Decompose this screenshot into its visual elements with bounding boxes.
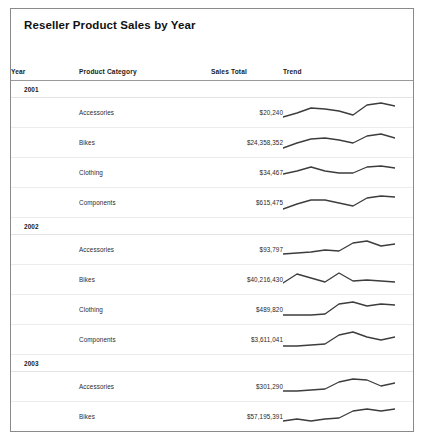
year-group-spacer	[283, 218, 413, 235]
cell-product-category: Accessories	[79, 235, 211, 265]
column-header-trend[interactable]: Trend	[283, 64, 413, 81]
sparkline-line	[283, 379, 395, 391]
cell-sales-total: $34,467	[211, 158, 283, 188]
sparkline-line	[283, 332, 395, 346]
table-row[interactable]: Bikes$57,195,391	[11, 402, 413, 432]
table-row[interactable]: Bikes$40,216,430	[11, 265, 413, 295]
cell-year-empty	[11, 188, 79, 218]
cell-sales-total: $884,354	[211, 432, 283, 433]
year-group-spacer	[79, 81, 211, 98]
sparkline-chart	[283, 269, 395, 291]
cell-trend	[283, 98, 413, 128]
year-group-spacer	[211, 218, 283, 235]
sparkline-chart	[283, 132, 395, 154]
cell-year-empty	[11, 265, 79, 295]
cell-trend	[283, 235, 413, 265]
cell-trend	[283, 295, 413, 325]
sparkline-line	[283, 103, 395, 117]
report-frame: Reseller Product Sales by Year Year Prod…	[10, 8, 414, 432]
cell-trend	[283, 402, 413, 432]
table-header: Year Product Category Sales Total Trend	[11, 64, 413, 81]
table-row[interactable]: Accessories$20,240	[11, 98, 413, 128]
sparkline-chart	[283, 406, 395, 428]
sparkline-chart	[283, 329, 395, 351]
cell-product-category: Accessories	[79, 98, 211, 128]
cell-product-category: Components	[79, 188, 211, 218]
sparkline-chart	[283, 376, 395, 398]
cell-sales-total: $489,820	[211, 295, 283, 325]
cell-product-category: Accessories	[79, 372, 211, 402]
year-group-spacer	[283, 355, 413, 372]
cell-year-empty	[11, 402, 79, 432]
sparkline-line	[283, 409, 395, 421]
cell-year-empty	[11, 235, 79, 265]
sparkline-line	[283, 134, 395, 148]
page-title: Reseller Product Sales by Year	[24, 19, 196, 31]
year-group-row: 2001	[11, 81, 413, 98]
table-row[interactable]: Accessories$301,290	[11, 372, 413, 402]
cell-sales-total: $301,290	[211, 372, 283, 402]
cell-product-category: Components	[79, 325, 211, 355]
year-group-label: 2003	[11, 355, 79, 372]
sparkline-line	[283, 241, 395, 254]
cell-sales-total: $24,358,352	[211, 128, 283, 158]
sparkline-chart	[283, 102, 395, 124]
cell-year-empty	[11, 98, 79, 128]
table-body: 2001Accessories$20,240Bikes$24,358,352Cl…	[11, 81, 413, 433]
year-group-row: 2002	[11, 218, 413, 235]
cell-trend	[283, 325, 413, 355]
cell-trend	[283, 158, 413, 188]
sales-table: Year Product Category Sales Total Trend …	[11, 64, 413, 432]
table-row[interactable]: Components$3,611,041	[11, 325, 413, 355]
cell-year-empty	[11, 128, 79, 158]
cell-trend	[283, 372, 413, 402]
cell-sales-total: $3,611,041	[211, 325, 283, 355]
table-row[interactable]: Clothing$34,467	[11, 158, 413, 188]
cell-product-category: Clothing	[79, 432, 211, 433]
year-group-spacer	[283, 81, 413, 98]
cell-year-empty	[11, 295, 79, 325]
column-header-year[interactable]: Year	[11, 64, 79, 81]
cell-year-empty	[11, 158, 79, 188]
sparkline-line	[283, 166, 395, 174]
table-row[interactable]: Clothing$884,354	[11, 432, 413, 433]
year-group-spacer	[79, 218, 211, 235]
cell-trend	[283, 432, 413, 433]
sparkline-chart	[283, 192, 395, 214]
table-row[interactable]: Bikes$24,358,352	[11, 128, 413, 158]
table-row[interactable]: Components$615,475	[11, 188, 413, 218]
cell-sales-total: $615,475	[211, 188, 283, 218]
cell-sales-total: $57,195,391	[211, 402, 283, 432]
year-group-spacer	[79, 355, 211, 372]
cell-sales-total: $93,797	[211, 235, 283, 265]
cell-product-category: Bikes	[79, 402, 211, 432]
cell-product-category: Clothing	[79, 158, 211, 188]
year-group-label: 2001	[11, 81, 79, 98]
sparkline-chart	[283, 239, 395, 261]
table-row[interactable]: Clothing$489,820	[11, 295, 413, 325]
cell-trend	[283, 188, 413, 218]
year-group-label: 2002	[11, 218, 79, 235]
column-header-total[interactable]: Sales Total	[211, 64, 283, 81]
year-group-spacer	[211, 81, 283, 98]
cell-trend	[283, 128, 413, 158]
year-group-row: 2003	[11, 355, 413, 372]
cell-trend	[283, 265, 413, 295]
cell-year-empty	[11, 372, 79, 402]
table-row[interactable]: Accessories$93,797	[11, 235, 413, 265]
sparkline-line	[283, 302, 395, 315]
cell-product-category: Bikes	[79, 265, 211, 295]
clipped-caption	[10, 438, 180, 446]
cell-year-empty	[11, 432, 79, 433]
year-group-spacer	[211, 355, 283, 372]
sparkline-chart	[283, 162, 395, 184]
sparkline-chart	[283, 299, 395, 321]
cell-sales-total: $20,240	[211, 98, 283, 128]
column-header-category[interactable]: Product Category	[79, 64, 211, 81]
cell-year-empty	[11, 325, 79, 355]
table-header-row: Year Product Category Sales Total Trend	[11, 64, 413, 81]
cell-product-category: Clothing	[79, 295, 211, 325]
sparkline-line	[283, 273, 395, 283]
sparkline-line	[283, 196, 395, 209]
cell-product-category: Bikes	[79, 128, 211, 158]
